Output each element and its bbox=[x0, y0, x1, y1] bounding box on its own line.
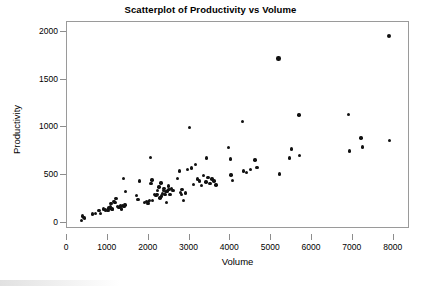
data-point bbox=[99, 212, 102, 215]
x-axis-title: Volume bbox=[66, 256, 409, 267]
data-point bbox=[348, 149, 351, 152]
data-point bbox=[288, 156, 291, 159]
data-point bbox=[178, 169, 181, 172]
data-point bbox=[208, 182, 211, 185]
data-point bbox=[180, 188, 183, 191]
x-axis-tick bbox=[229, 234, 230, 240]
data-point bbox=[94, 212, 97, 215]
data-point bbox=[136, 198, 139, 201]
data-point bbox=[278, 172, 281, 175]
x-axis-tick bbox=[311, 234, 312, 240]
data-point bbox=[176, 177, 179, 180]
data-point bbox=[198, 179, 201, 182]
data-point bbox=[204, 180, 207, 183]
data-point bbox=[171, 189, 174, 192]
data-point bbox=[297, 113, 300, 116]
data-point bbox=[387, 34, 391, 38]
data-point bbox=[184, 191, 187, 194]
x-axis-tick-label: 6000 bbox=[302, 242, 321, 252]
data-point bbox=[229, 157, 232, 160]
data-point bbox=[151, 199, 154, 202]
data-point bbox=[186, 168, 189, 171]
x-axis-tick-label: 1000 bbox=[97, 242, 116, 252]
x-axis-tick bbox=[270, 234, 271, 240]
x-axis-tick bbox=[107, 234, 108, 240]
data-point bbox=[188, 126, 191, 129]
data-point bbox=[182, 199, 185, 202]
data-point bbox=[200, 184, 203, 187]
y-axis-tick-label: 0 bbox=[53, 217, 58, 227]
data-point bbox=[249, 168, 252, 171]
chart-title: Scatterplot of Productivity vs Volume bbox=[0, 4, 421, 15]
data-point bbox=[206, 176, 209, 179]
data-point bbox=[123, 203, 126, 206]
data-point bbox=[190, 166, 193, 169]
data-point bbox=[111, 208, 114, 211]
x-axis-tick-label: 8000 bbox=[383, 242, 402, 252]
y-axis-tick-label: 2000 bbox=[39, 26, 58, 36]
data-point bbox=[149, 182, 152, 185]
data-point bbox=[113, 201, 116, 204]
data-point bbox=[192, 183, 195, 186]
data-point bbox=[298, 154, 301, 157]
data-point bbox=[245, 171, 248, 174]
x-axis-tick bbox=[393, 234, 394, 240]
data-point bbox=[156, 189, 159, 192]
x-axis-tick-label: 5000 bbox=[261, 242, 280, 252]
x-axis-tick-label: 2000 bbox=[138, 242, 157, 252]
data-point bbox=[202, 174, 205, 177]
data-point bbox=[168, 193, 171, 196]
page-artifact bbox=[0, 280, 120, 286]
data-point bbox=[229, 173, 232, 176]
y-axis-tick-label: 500 bbox=[44, 169, 58, 179]
x-axis-tick-label: 7000 bbox=[342, 242, 361, 252]
data-point bbox=[157, 185, 160, 188]
data-point bbox=[135, 194, 138, 197]
data-points-layer bbox=[67, 22, 408, 227]
data-point bbox=[180, 193, 183, 196]
data-point bbox=[165, 201, 168, 204]
data-point bbox=[205, 156, 208, 159]
data-point bbox=[255, 166, 258, 169]
data-point bbox=[114, 197, 117, 200]
y-axis-tick-label: 1000 bbox=[39, 121, 58, 131]
data-point bbox=[159, 181, 162, 184]
x-axis-tick bbox=[352, 234, 353, 240]
data-point bbox=[347, 113, 350, 116]
data-point bbox=[227, 146, 230, 149]
y-axis-tick-label: 1500 bbox=[39, 74, 58, 84]
data-point bbox=[388, 139, 391, 142]
scatterplot-figure: Scatterplot of Productivity vs Volume Pr… bbox=[0, 0, 421, 286]
data-point bbox=[290, 147, 293, 150]
x-axis-tick bbox=[189, 234, 190, 240]
data-point bbox=[124, 190, 127, 193]
data-point bbox=[149, 156, 152, 159]
x-axis-tick-label: 4000 bbox=[220, 242, 239, 252]
data-point bbox=[194, 163, 197, 166]
data-point bbox=[214, 183, 217, 186]
data-point bbox=[163, 193, 166, 196]
plot-area bbox=[66, 21, 409, 228]
x-axis-tick-label: 3000 bbox=[179, 242, 198, 252]
data-point bbox=[150, 178, 153, 181]
data-point bbox=[253, 158, 256, 161]
data-point bbox=[138, 179, 141, 182]
data-point bbox=[359, 136, 362, 139]
data-point bbox=[83, 216, 86, 219]
data-point bbox=[122, 177, 125, 180]
x-axis-tick bbox=[148, 234, 149, 240]
data-point bbox=[361, 145, 364, 148]
x-axis-tick bbox=[66, 234, 67, 240]
data-point bbox=[231, 179, 234, 182]
x-axis: 010002000300040005000600070008000 bbox=[66, 234, 409, 240]
data-point bbox=[241, 120, 244, 123]
x-axis-tick-label: 0 bbox=[64, 242, 69, 252]
data-point bbox=[276, 56, 280, 60]
y-axis-title: Productivity bbox=[11, 70, 22, 190]
